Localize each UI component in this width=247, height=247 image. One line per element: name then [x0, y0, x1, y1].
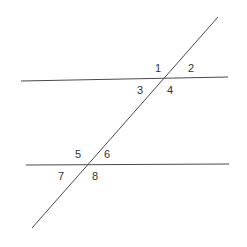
angle-label-7: 7	[58, 170, 64, 182]
upper-parallel-line	[21, 77, 228, 81]
parallel-lines-transversal-diagram: 1 2 3 4 5 6 7 8	[0, 0, 247, 247]
angle-label-3: 3	[137, 84, 143, 96]
angle-label-4: 4	[167, 84, 173, 96]
angle-label-2: 2	[188, 62, 194, 74]
lower-parallel-line	[26, 164, 229, 165]
angle-label-8: 8	[92, 170, 98, 182]
transversal-line	[32, 17, 218, 228]
angle-label-5: 5	[75, 148, 81, 160]
angle-label-6: 6	[104, 148, 110, 160]
angle-label-1: 1	[155, 62, 161, 74]
